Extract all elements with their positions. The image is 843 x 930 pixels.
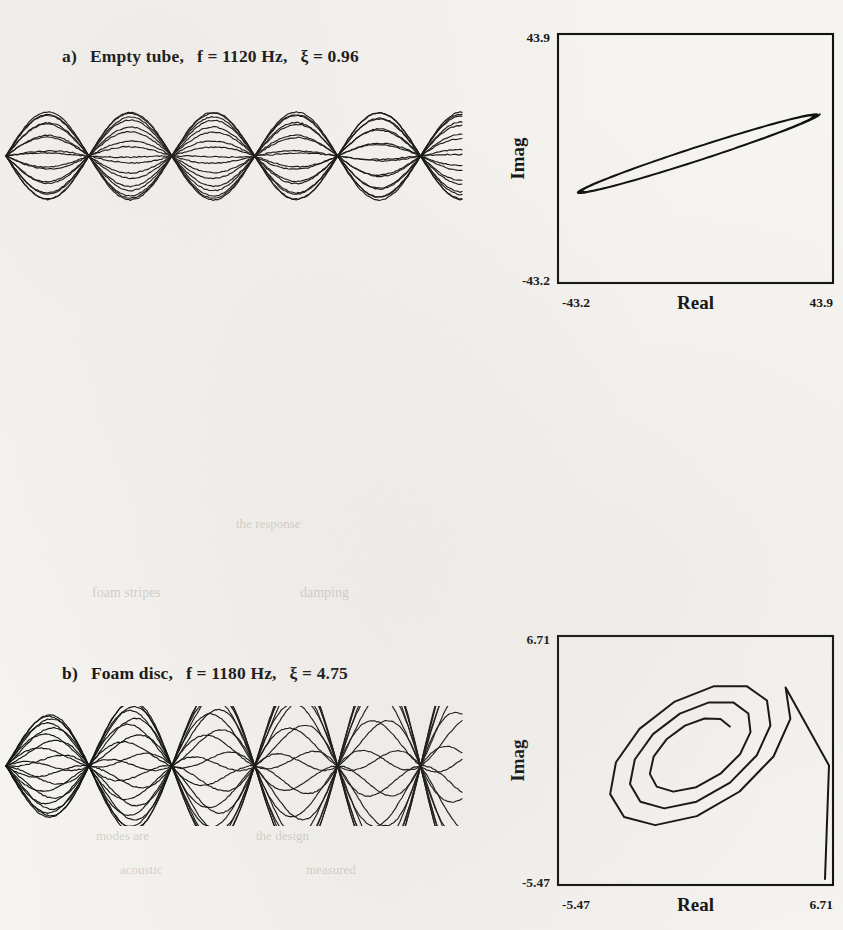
panel-a-caption-name: Empty tube,	[90, 46, 184, 66]
nyquist-ylabel: Imag	[507, 137, 528, 180]
nyquist-frame	[558, 34, 833, 283]
panel-b: b)Foam disc,f = 1180 Hz,ξ = 4.75 6.71-5.…	[0, 308, 843, 608]
panel-a-modeshape-svg	[0, 96, 470, 216]
panel-a-modeshape	[0, 96, 470, 220]
panel-a-nyquist: 43.9-43.2-43.243.9RealImag	[488, 24, 838, 318]
panel-c: c)Foam stripes,f = 1060 Hz,ξ = 4.85 50.0…	[0, 600, 843, 930]
nyquist-ymin-tick: -43.2	[522, 273, 550, 288]
panel-a-caption-letter: a)	[62, 46, 77, 66]
nyquist-ymax-tick: 43.9	[526, 30, 550, 45]
panel-a-caption-frequency: f = 1120 Hz,	[197, 46, 288, 66]
nyquist-locus	[578, 114, 820, 193]
panel-a-nyquist-svg: 43.9-43.2-43.243.9RealImag	[488, 24, 838, 314]
panel-a-wave-traces	[6, 112, 462, 201]
figure-root: a)Empty tube,f = 1120 Hz,ξ = 0.96 43.9-4…	[0, 0, 843, 930]
panel-a: a)Empty tube,f = 1120 Hz,ξ = 0.96 43.9-4…	[0, 0, 843, 318]
panel-a-caption: a)Empty tube,f = 1120 Hz,ξ = 0.96	[62, 46, 359, 67]
panel-a-caption-damping: ξ = 0.96	[300, 46, 358, 66]
